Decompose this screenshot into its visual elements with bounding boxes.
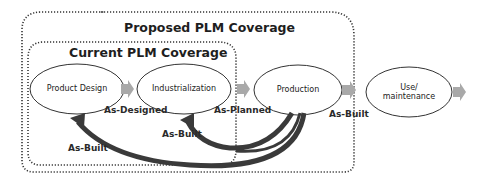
node-label-use-maintenance-line2: maintenance [366, 92, 452, 101]
proposed-coverage-title: Proposed PLM Coverage [124, 20, 295, 35]
label-as-built-outer: As-Built [68, 143, 108, 153]
label-as-planned: As-Planned [214, 105, 271, 115]
arrow-right-icon [237, 80, 250, 98]
label-as-designed: As-Designed [104, 105, 167, 115]
node-label-use-maintenance-line1: Use/ [366, 83, 452, 92]
current-coverage-title: Current PLM Coverage [69, 45, 227, 60]
node-label-production: Production [254, 85, 342, 94]
arrow-right-icon [453, 83, 466, 101]
feedback-arrows [70, 113, 304, 166]
arrow-head-icon [180, 113, 194, 128]
node-label-industrialization: Industrialization [137, 84, 231, 93]
label-as-built-inner: As-Built [162, 129, 202, 139]
arrow-head-icon [70, 113, 85, 128]
label-as-built-forward: As-Built [329, 109, 369, 119]
node-label-product-design: Product Design [30, 84, 124, 93]
